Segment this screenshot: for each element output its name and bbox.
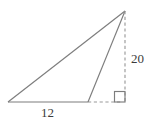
geometry-figure: 12 20 <box>0 0 150 124</box>
right-angle-marker-icon <box>115 92 126 103</box>
cevian-line <box>88 11 125 102</box>
base-length-label: 12 <box>41 106 54 119</box>
geometry-canvas <box>0 0 150 124</box>
height-length-label: 20 <box>131 52 144 65</box>
hypotenuse-line <box>8 11 125 102</box>
